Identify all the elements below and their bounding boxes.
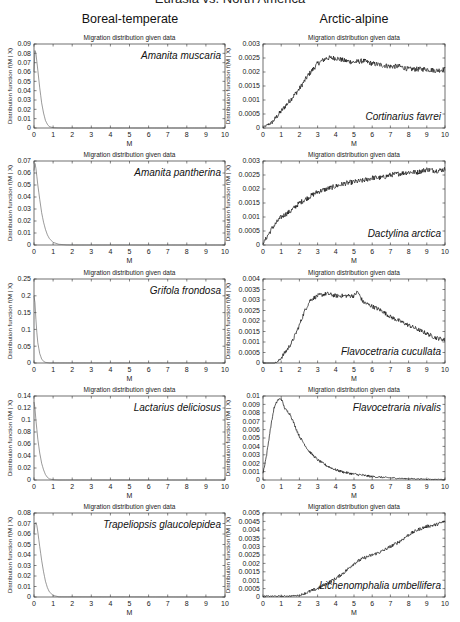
y-tick-label: 0.003 [242,451,260,458]
x-tick-label: 0 [261,483,265,490]
x-tick-label: 0 [261,248,265,255]
x-tick-label: 6 [147,366,151,373]
x-tick-label: 1 [279,248,283,255]
y-axis-label: Distribution function f(M | X) [224,517,231,593]
y-tick-label: 0.001 [242,468,260,475]
y-tick-label: 0.09 [17,40,31,47]
x-tick-label: 9 [425,366,429,373]
panel-title: Migration distribution given data [84,151,176,159]
y-tick-label: 0 [27,124,31,131]
x-tick-label: 9 [425,131,429,138]
x-tick-label: 9 [204,131,208,138]
x-tick-label: 3 [316,366,320,373]
y-tick-label: 0.007 [242,418,260,425]
y-tick-label: 0.004 [242,526,260,533]
y-tick-label: 0.003 [242,157,260,164]
x-tick-label: 1 [279,600,283,607]
species-label: Amanita muscaria [140,50,221,61]
panel-title: Migration distribution given data [84,386,176,394]
x-tick-label: 4 [334,600,338,607]
y-tick-label: 0.006 [242,426,260,433]
y-tick-label: 0.2 [21,292,31,299]
x-tick-label: 7 [166,131,170,138]
x-tick-label: 3 [316,248,320,255]
x-tick-label: 8 [185,131,189,138]
species-label: Grifola frondosa [150,285,222,296]
y-tick-label: 0.06 [17,440,31,447]
chart-panel-left-5: Migration distribution given data0123456… [6,503,229,616]
y-tick-label: 0.05 [17,181,31,188]
x-tick-label: 5 [128,131,132,138]
y-axis-label: Distribution function f(M | X) [6,400,13,476]
x-tick-label: 7 [388,248,392,255]
y-tick-label: 0.06 [17,68,31,75]
panel-title: Migration distribution given data [308,151,400,159]
chart-panel-left-2: Migration distribution given data0123456… [6,151,229,264]
x-axis-label: M [351,609,357,616]
x-tick-label: 0 [261,600,265,607]
x-tick-label: 0 [261,366,265,373]
y-tick-label: 0.0025 [239,171,261,178]
y-tick-label: 0.08 [17,50,31,57]
x-tick-label: 6 [147,248,151,255]
data-series-line [34,522,225,597]
x-tick-label: 4 [108,366,112,373]
y-tick-label: 0 [256,593,260,600]
chart-panel-left-1: Migration distribution given data0123456… [6,34,229,147]
x-tick-label: 1 [279,366,283,373]
x-tick-label: 4 [108,248,112,255]
x-tick-label: 8 [407,600,411,607]
x-tick-label: 10 [221,248,229,255]
species-label: Lichenomphalia umbellifera [319,580,441,591]
x-tick-label: 7 [166,483,170,490]
x-tick-label: 7 [388,600,392,607]
y-tick-label: 0.005 [242,509,260,516]
x-tick-label: 9 [204,366,208,373]
y-tick-label: 0.02 [17,572,31,579]
y-tick-label: 0.001 [242,577,260,584]
x-axis-label: M [351,492,357,499]
x-tick-label: 0 [32,131,36,138]
panel-title: Migration distribution given data [308,386,400,394]
x-tick-label: 6 [370,366,374,373]
y-tick-label: 0.003 [242,296,260,303]
y-tick-label: 0 [27,476,31,483]
y-tick-label: 0.15 [17,309,31,316]
y-axis-label: Distribution function f(M | X) [6,517,13,593]
x-tick-label: 3 [316,600,320,607]
y-tick-label: 0 [256,124,260,131]
y-tick-label: 0.03 [17,562,31,569]
y-tick-label: 0.0035 [239,535,261,542]
x-axis-label: M [351,375,357,382]
y-tick-label: 0 [27,359,31,366]
x-tick-label: 6 [370,483,374,490]
y-tick-label: 0 [256,476,260,483]
x-tick-label: 8 [407,131,411,138]
y-tick-label: 0.1 [21,416,31,423]
x-tick-label: 2 [297,483,301,490]
x-tick-label: 1 [51,600,55,607]
species-label: Trapeliopsis glaucolepidea [103,519,221,530]
x-tick-label: 2 [297,248,301,255]
x-axis-label: M [127,609,133,616]
x-tick-label: 4 [334,483,338,490]
y-tick-label: 0.05 [17,343,31,350]
species-label: Flavocetraria cucullata [341,346,441,357]
panel-title: Migration distribution given data [84,269,176,277]
x-tick-label: 9 [425,600,429,607]
x-tick-label: 1 [51,483,55,490]
species-label: Cortinarius favrei [365,111,441,122]
y-tick-label: 0.001 [242,338,260,345]
x-tick-label: 10 [221,131,229,138]
y-tick-label: 0.07 [17,59,31,66]
y-tick-label: 0.05 [17,541,31,548]
x-tick-label: 4 [334,366,338,373]
y-tick-label: 0.07 [17,520,31,527]
species-label: Amanita pantherina [133,167,221,178]
y-axis-label: Distribution function f(M | X) [6,165,13,241]
x-tick-label: 8 [407,366,411,373]
x-axis-label: M [127,492,133,499]
x-tick-label: 2 [70,248,74,255]
x-tick-label: 7 [388,131,392,138]
y-tick-label: 0.0045 [239,518,261,525]
